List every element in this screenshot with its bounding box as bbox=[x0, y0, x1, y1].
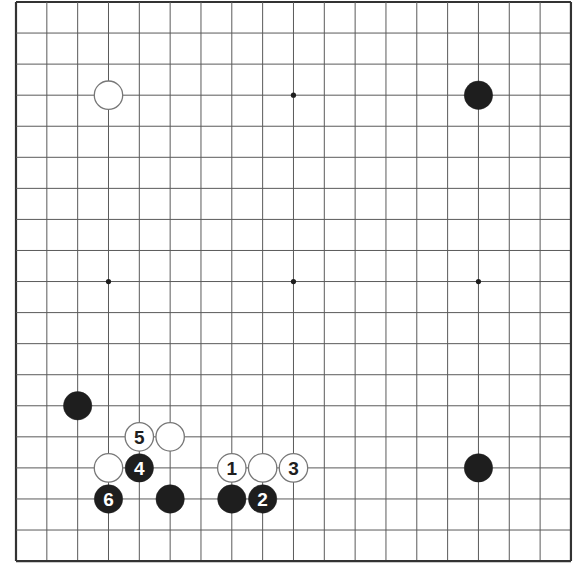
black-stone bbox=[464, 454, 492, 482]
stone-disc bbox=[63, 392, 91, 420]
white-stone bbox=[94, 81, 122, 109]
white-stone bbox=[94, 454, 122, 482]
stone-disc bbox=[248, 454, 276, 482]
move-number-label: 4 bbox=[134, 458, 145, 479]
go-board[interactable]: 541362 bbox=[0, 0, 579, 569]
black-stone bbox=[218, 485, 246, 513]
star-point bbox=[291, 279, 296, 284]
stones-layer: 541362 bbox=[63, 81, 492, 513]
stone-disc bbox=[156, 423, 184, 451]
black-stone bbox=[156, 485, 184, 513]
black-stone-move-6: 6 bbox=[94, 485, 122, 513]
move-number-label: 6 bbox=[103, 489, 114, 510]
stone-disc bbox=[464, 81, 492, 109]
white-stone-move-1: 1 bbox=[218, 454, 246, 482]
star-point bbox=[106, 279, 111, 284]
white-stone-move-3: 3 bbox=[279, 454, 307, 482]
move-number-label: 2 bbox=[257, 489, 268, 510]
white-stone bbox=[248, 454, 276, 482]
stone-disc bbox=[156, 485, 184, 513]
move-number-label: 5 bbox=[134, 427, 145, 448]
stone-disc bbox=[218, 485, 246, 513]
stone-disc bbox=[464, 454, 492, 482]
move-number-label: 3 bbox=[288, 458, 299, 479]
stone-disc bbox=[94, 454, 122, 482]
star-point bbox=[476, 279, 481, 284]
black-stone bbox=[63, 392, 91, 420]
white-stone bbox=[156, 423, 184, 451]
black-stone bbox=[464, 81, 492, 109]
white-stone-move-5: 5 bbox=[125, 423, 153, 451]
star-point bbox=[291, 93, 296, 98]
black-stone-move-4: 4 bbox=[125, 454, 153, 482]
move-number-label: 1 bbox=[227, 458, 238, 479]
stone-disc bbox=[94, 81, 122, 109]
black-stone-move-2: 2 bbox=[248, 485, 276, 513]
